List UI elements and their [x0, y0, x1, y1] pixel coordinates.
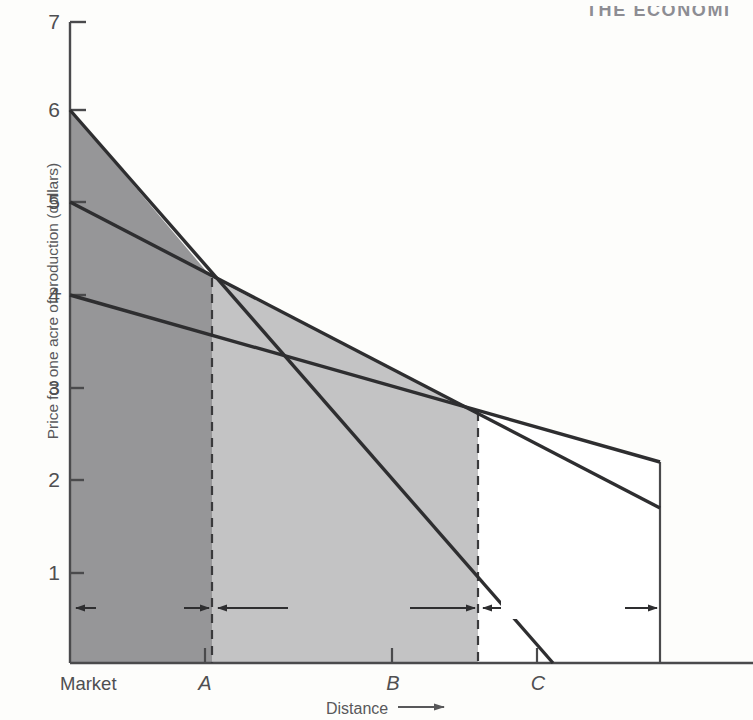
rent-gradient-figure: Price for one acre of production (dollar…: [0, 0, 753, 720]
plot-canvas: [0, 0, 753, 720]
arrow-label-gaps: [96, 597, 625, 619]
zone-fill-wheat-ranching: [478, 412, 660, 663]
